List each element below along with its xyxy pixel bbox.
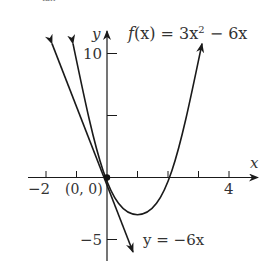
parabola-label: f(x) = 3x2 − 6x [127,24,247,43]
tangent-line [52,44,133,252]
tick-label-neg2: −2 [28,180,50,198]
x-axis-label: x [250,154,259,172]
x-axis [28,171,258,178]
tick-label-4: 4 [224,180,234,198]
tick-label-10: 10 [83,45,102,63]
origin-point [104,174,110,180]
function-graph: y x 10 −5 −2 4 (0, 0) f(x) = 3x2 − 6x y … [0,0,279,279]
y-axis [107,31,117,261]
origin-label: (0, 0) [65,181,103,197]
tick-label-neg5: −5 [80,231,102,249]
line-label: y = −6x [142,231,205,249]
x-axis-ticks [46,171,229,178]
y-axis-label: y [91,25,101,43]
